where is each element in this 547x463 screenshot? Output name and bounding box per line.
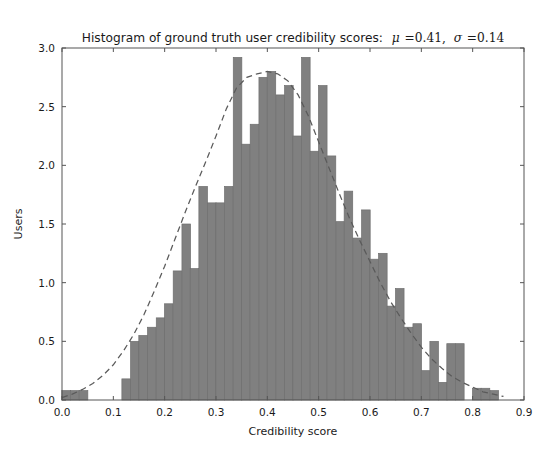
histogram-bar: [421, 371, 430, 400]
histogram-bar: [233, 57, 242, 400]
plot-area: [62, 57, 504, 400]
y-tick-label: 1.0: [38, 277, 55, 289]
histogram-bar: [447, 344, 456, 400]
histogram-bar: [259, 77, 268, 400]
histogram-chart: Histogram of ground truth user credibili…: [0, 0, 547, 463]
histogram-bar: [285, 86, 294, 400]
histogram-bar: [481, 388, 490, 400]
histogram-bar: [456, 344, 465, 400]
mu-symbol: μ: [392, 31, 400, 45]
histogram-bar: [122, 379, 131, 400]
histogram-bar: [310, 151, 319, 400]
x-tick-label: 0.4: [259, 406, 276, 418]
histogram-bar: [379, 253, 388, 400]
histogram-bar: [362, 210, 371, 400]
histogram-bar: [370, 259, 379, 400]
histogram-bar: [472, 388, 481, 400]
histogram-bar: [225, 186, 234, 400]
histogram-bar: [327, 156, 336, 400]
histogram-bar: [250, 124, 259, 400]
histogram-bar: [353, 238, 362, 400]
y-tick-label: 3.0: [38, 42, 55, 54]
chart-title-text: Histogram of ground truth user credibili…: [82, 31, 383, 45]
histogram-bar: [182, 224, 191, 400]
histogram-bar: [156, 318, 165, 400]
histogram-bar: [62, 391, 71, 400]
x-tick-label: 0.3: [208, 406, 225, 418]
y-tick-label: 2.5: [38, 101, 55, 113]
histogram-bar: [131, 341, 140, 400]
histogram-bar: [336, 222, 345, 400]
sigma-value: =0.14: [467, 31, 505, 45]
mu-value: =0.41,: [405, 31, 446, 45]
histogram-bar: [164, 304, 173, 400]
histogram-bar: [79, 391, 88, 400]
histogram-bar: [267, 71, 276, 400]
y-tick-label: 0.0: [38, 394, 55, 406]
x-tick-label: 0.9: [516, 406, 533, 418]
histogram-bar: [241, 144, 250, 400]
sigma-symbol: σ: [454, 31, 463, 45]
y-tick-label: 2.0: [38, 159, 55, 171]
histogram-bar: [302, 57, 311, 400]
histogram-bar: [318, 86, 327, 400]
histogram-bar: [173, 271, 182, 400]
histogram-bar: [199, 186, 208, 400]
x-tick-label: 0.7: [413, 406, 430, 418]
histogram-bar: [216, 203, 225, 400]
x-tick-label: 0.8: [464, 406, 481, 418]
x-tick-label: 0.2: [156, 406, 173, 418]
y-tick-label: 0.5: [38, 335, 55, 347]
chart-figure: Histogram of ground truth user credibili…: [0, 0, 547, 463]
histogram-bar: [71, 391, 80, 400]
histogram-bar: [404, 327, 413, 400]
histogram-bar: [139, 335, 148, 400]
histogram-bar: [395, 289, 404, 400]
histogram-bar: [430, 341, 439, 400]
x-tick-label: 0.0: [54, 406, 71, 418]
x-tick-label: 0.1: [105, 406, 122, 418]
histogram-bar: [276, 95, 285, 400]
x-axis-label: Credibility score: [249, 425, 338, 438]
histogram-bar: [190, 269, 199, 400]
histogram-bar: [293, 136, 302, 400]
histogram-bar: [439, 382, 448, 400]
histogram-bar: [208, 203, 217, 400]
y-tick-label: 1.5: [38, 218, 55, 230]
histogram-bar: [148, 327, 157, 400]
x-tick-label: 0.5: [310, 406, 327, 418]
x-tick-label: 0.6: [362, 406, 379, 418]
histogram-bar: [387, 306, 396, 400]
histogram-bar: [413, 324, 422, 400]
chart-title: Histogram of ground truth user credibili…: [82, 31, 505, 45]
y-axis-label: Users: [12, 208, 25, 239]
